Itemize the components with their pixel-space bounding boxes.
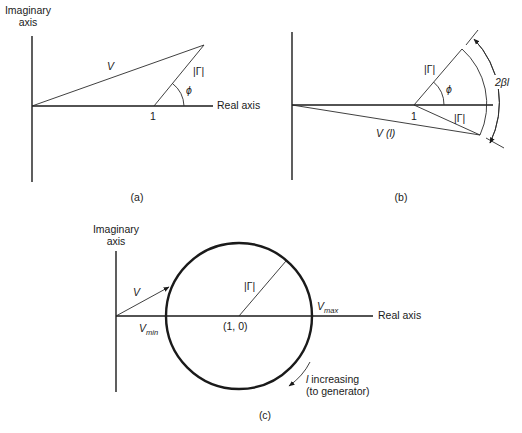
center-label: (1, 0) — [223, 320, 248, 332]
imaginary-axis-label: Imaginary — [5, 4, 52, 16]
vector-v — [32, 45, 204, 106]
phi-label: ϕ — [446, 83, 452, 95]
vector-v — [116, 287, 169, 316]
imaginary-axis-label-2: axis — [19, 16, 38, 28]
vector-v-label: V — [133, 286, 141, 298]
panel-b: |Γ| ϕ |Γ| V (l) 1 2βl (b) — [292, 30, 515, 203]
two-beta-l-label: 2βl — [494, 76, 510, 88]
transmission-line-phasor-figure: Imaginary axis Real axis V |Γ| ϕ 1 (a) |… — [0, 0, 522, 433]
gamma-vector-lower — [414, 105, 480, 135]
gamma-vector-upper — [414, 49, 462, 105]
direction-label-line1: l increasing — [306, 373, 359, 385]
real-axis-label: Real axis — [378, 309, 421, 321]
rotation-arc — [462, 49, 487, 135]
vmin-label: Vmin — [139, 322, 158, 337]
imaginary-axis-label-2: axis — [107, 235, 126, 247]
gamma-label: |Γ| — [193, 65, 204, 77]
vector-v-label: V — [107, 60, 115, 72]
phi-angle-arc — [434, 82, 445, 105]
extension-line-lower — [486, 138, 504, 148]
vector-v-of-l-label: V (l) — [376, 127, 395, 139]
direction-label-line2: (to generator) — [306, 385, 370, 397]
caption-c: (c) — [259, 409, 271, 421]
panel-c: Imaginary axis Real axis |Γ| V (1, 0) Vm… — [93, 223, 421, 421]
two-beta-l-dimension-arrow-lower — [474, 39, 499, 143]
extension-line-upper — [466, 30, 478, 45]
point-one-label: 1 — [150, 110, 156, 122]
real-axis-label: Real axis — [217, 99, 260, 111]
caption-a: (a) — [131, 191, 144, 203]
gamma-lower-label: |Γ| — [454, 112, 465, 124]
imaginary-axis-label: Imaginary — [93, 223, 140, 235]
vmax-label: Vmax — [317, 300, 338, 315]
phi-label: ϕ — [186, 84, 192, 96]
point-one-label: 1 — [411, 110, 417, 122]
caption-b: (b) — [395, 191, 408, 203]
gamma-label: |Γ| — [244, 280, 255, 292]
phi-angle-arc — [173, 84, 185, 107]
gamma-upper-label: |Γ| — [424, 63, 435, 75]
panel-a: Imaginary axis Real axis V |Γ| ϕ 1 (a) — [5, 4, 260, 203]
